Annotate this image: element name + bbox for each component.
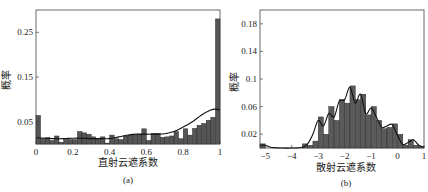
histogram-bar [54, 136, 59, 144]
x-tick-label: 0.2 [67, 147, 78, 157]
x-tick-label: 0.4 [104, 147, 116, 157]
x-axis-label-b: 散射云遮系数 [316, 161, 376, 173]
histogram-bar [202, 123, 207, 144]
histogram-bar [119, 140, 124, 144]
y-tick-label: 0.05 [17, 117, 33, 127]
histogram-bar [64, 140, 69, 144]
histogram-bar [371, 107, 376, 148]
x-tick-label: 0.6 [141, 147, 153, 157]
histogram-bar [142, 129, 147, 144]
y-tick-label: 0.15 [17, 72, 33, 82]
histogram-bar [313, 141, 318, 148]
histogram-bar [334, 120, 339, 148]
histogram-bar [105, 143, 110, 144]
histogram-bar [59, 142, 64, 144]
histogram-bar [146, 140, 151, 144]
y-tick-label: 0.06 [241, 102, 257, 112]
histogram-bar [174, 131, 179, 144]
caption-b: (b) [341, 178, 352, 188]
histogram-bar [123, 136, 128, 144]
histogram-bar [339, 100, 344, 148]
x-tick-label: 0 [395, 151, 400, 161]
figure: 0.050.150.25 00.20.40.60.81 概率 直射云遮系数 (a… [0, 0, 428, 192]
histogram-bar [211, 117, 216, 144]
histogram-bar [110, 135, 115, 144]
histogram-bar [366, 115, 371, 148]
y-axis-label-b: 概率 [228, 72, 240, 92]
histogram-bar [382, 129, 387, 148]
histogram-bar [308, 145, 313, 148]
histogram-bar [376, 120, 381, 148]
histogram-bar [392, 124, 397, 148]
y-tick-label: 0.18 [241, 19, 257, 29]
x-tick-label: −5 [261, 151, 271, 161]
x-tick-label: 1 [422, 151, 427, 161]
histogram-bar [188, 135, 193, 144]
y-tick-label: 0.14 [241, 46, 257, 56]
histogram-bar [169, 136, 174, 144]
histogram-bar [165, 137, 170, 144]
histogram-bar [355, 100, 360, 148]
histogram-bar [260, 144, 265, 148]
plot-frame-a [36, 10, 220, 144]
histogram-bar [151, 133, 156, 144]
bars-a [36, 19, 220, 144]
x-tick-label: −2 [340, 151, 350, 161]
histogram-bar [345, 103, 350, 148]
histogram-bar [156, 133, 161, 144]
x-tick-label: −3 [313, 151, 323, 161]
histogram-bar [318, 117, 323, 148]
panel-a: 0.050.150.25 00.20.40.60.81 概率 直射云遮系数 (a… [0, 10, 222, 185]
histogram-bar [137, 134, 142, 144]
histogram-bar [183, 129, 188, 144]
x-tick-label: 0.8 [178, 147, 190, 157]
histogram-bar [197, 125, 202, 144]
y-tick-label: 0.02 [241, 129, 257, 139]
histogram-bar [100, 137, 105, 144]
caption-a: (a) [123, 175, 133, 185]
histogram-bar [50, 140, 55, 144]
y-tick-label: 0.1 [246, 74, 257, 84]
histogram-bar [91, 137, 96, 144]
histogram-bar [41, 139, 46, 144]
histogram-bar [73, 140, 78, 144]
histogram-bar [323, 134, 328, 148]
histogram-bar [114, 139, 119, 144]
x-tick-label: −4 [287, 151, 297, 161]
histogram-bar [206, 120, 211, 144]
histogram-bar [36, 115, 41, 144]
y-tick-label: 0.25 [17, 27, 33, 37]
histogram-bar [179, 139, 184, 144]
histogram-bar [160, 137, 165, 144]
x-tick-label: −1 [366, 151, 376, 161]
panel-b: 0.020.060.10.140.18 −5−4−3−2−101 概率 散射云遮… [228, 10, 426, 188]
x-tick-label: 1 [218, 147, 223, 157]
histogram-bar [403, 145, 408, 148]
histogram-bar [215, 19, 220, 144]
x-tick-label: 0 [34, 147, 39, 157]
y-axis-label-a: 概率 [0, 70, 12, 90]
histogram-bar [133, 135, 138, 144]
histogram-bar [68, 140, 73, 144]
histogram-bar [387, 127, 392, 148]
histogram-bar [128, 135, 133, 144]
x-axis-label-a: 直射云遮系数 [98, 156, 158, 168]
histogram-bar [192, 128, 197, 144]
histogram-bar [413, 145, 418, 148]
